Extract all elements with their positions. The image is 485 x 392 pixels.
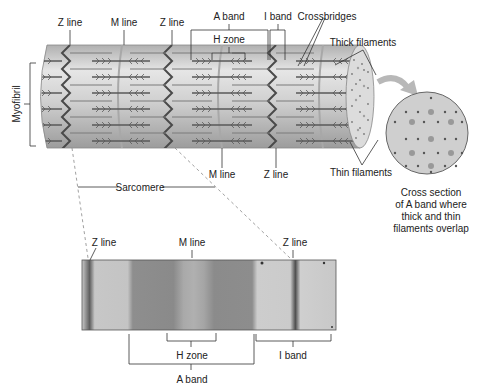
label-crossbridges: Crossbridges — [298, 11, 357, 22]
micro-label-a-band: A band — [176, 374, 207, 385]
caption-line-1: Cross section — [401, 187, 462, 198]
label-h-zone: H zone — [213, 34, 245, 45]
caption-line-3: thick and thin — [402, 211, 461, 222]
label-i-band: I band — [264, 11, 292, 22]
caption-line-4: filaments overlap — [393, 223, 469, 234]
cylinder-end-face — [346, 45, 374, 148]
myofibril-cylinder — [40, 45, 374, 149]
label-z-line-2: Z line — [160, 17, 185, 28]
label-myofibril: Myofibril — [11, 85, 22, 122]
micro-label-z-line-right: Z line — [283, 237, 308, 248]
cross-section-circle — [386, 92, 468, 174]
micro-label-m-line: M line — [179, 237, 206, 248]
caption-line-2: of A band where — [395, 199, 467, 210]
electron-micrograph — [82, 260, 336, 330]
label-thick-filaments: Thick filaments — [330, 37, 397, 48]
curved-arrow-icon — [378, 78, 408, 88]
micro-label-h-zone: H zone — [176, 350, 208, 361]
micro-label-i-band: I band — [279, 350, 307, 361]
label-sarcomere: Sarcomere — [116, 182, 165, 193]
label-thin-filaments: Thin filaments — [330, 167, 392, 178]
label-m-line-2: M line — [209, 169, 236, 180]
label-z-line-3: Z line — [264, 169, 289, 180]
label-z-line-1: Z line — [58, 17, 83, 28]
label-m-line-1: M line — [111, 17, 138, 28]
myofibril-diagram: Z line M line Z line A band H zone I ban… — [0, 0, 485, 392]
micro-label-z-line-left: Z line — [92, 237, 117, 248]
cross-section-caption: Cross section of A band where thick and … — [393, 187, 469, 234]
label-a-band: A band — [213, 11, 244, 22]
